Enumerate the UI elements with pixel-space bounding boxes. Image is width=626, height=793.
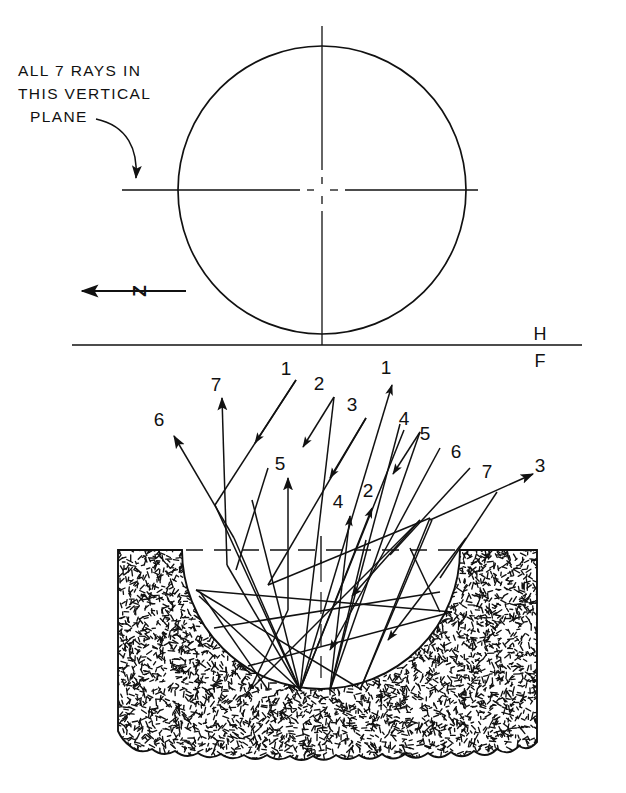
label-2-low: 2 [363,480,374,501]
label-5-left: 5 [275,453,286,474]
label-5-right: 5 [420,423,431,444]
label-6-right: 6 [451,441,462,462]
label-7-right: 7 [482,461,493,482]
label-1-in: 1 [281,358,292,379]
fold-line-label-h: H [534,324,547,344]
diagram-canvas: ALL 7 RAYS IN THIS VERTICAL PLANE Z H F [0,0,626,793]
label-4-mid: 4 [399,408,410,429]
label-1-out: 1 [381,357,392,378]
label-7-left: 7 [211,374,222,395]
note-line-2: THIS VERTICAL [18,85,151,102]
label-2-in: 2 [314,373,325,394]
note-line-3: PLANE [30,108,88,125]
fold-line-label-f: F [535,351,546,371]
label-4-low: 4 [333,491,344,512]
engineering-drawing: ALL 7 RAYS IN THIS VERTICAL PLANE Z H F [0,0,626,793]
label-3-in: 3 [347,394,358,415]
note-line-1: ALL 7 RAYS IN [18,62,141,79]
label-3-out: 3 [535,455,546,476]
z-axis-label: Z [129,285,150,297]
label-6-left: 6 [154,409,165,430]
